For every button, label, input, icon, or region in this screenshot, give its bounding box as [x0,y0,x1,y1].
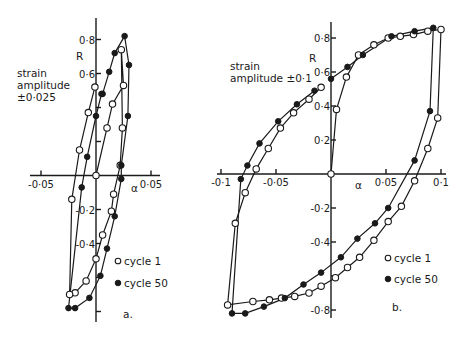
data-point-cycle-1 [438,26,444,32]
data-point-cycle-50 [229,311,235,317]
data-point-cycle-1 [425,28,431,34]
data-point-cycle-1 [265,145,271,151]
panel-a-annotation-line1: strain [17,67,47,79]
x-tick-label: 0·05 [140,179,162,190]
y-tick-label: 0·2 [314,135,330,146]
x-tick-label: 0·05 [375,177,397,188]
panel-a-label: a. [123,308,133,320]
x-tick-label: -0·05 [28,179,54,190]
panel-b-label: b. [392,301,402,313]
data-point-cycle-1 [232,220,238,226]
curve-cycle-50 [69,36,130,308]
data-point-cycle-50 [84,154,90,160]
data-point-cycle-1 [356,254,362,260]
data-point-cycle-50 [87,295,93,301]
panel-b-annotation-line2: amplitude ±0·1 [230,72,312,84]
panel-a-annotation-line3: ±0·025 [17,91,56,103]
panel-a-legend: cycle 1 cycle 50 [115,255,168,289]
data-point-cycle-1 [277,125,283,131]
data-point-cycle-50 [318,270,324,276]
legend-filled-circle-icon [385,276,391,282]
data-point-cycle-50 [112,214,118,220]
panel-b-chart: -0·1-0·050·050·10·80·60·40·2-0·2-0·4-0·8… [211,22,449,318]
data-point-cycle-1 [371,237,377,243]
hysteresis-figure: -0·050·050·80·6-0·2-0·4 R α strain ampli… [0,0,461,339]
data-point-cycle-1 [266,297,272,303]
data-point-cycle-1 [66,291,72,297]
data-point-cycle-1 [250,298,256,304]
data-point-cycle-50 [360,52,366,58]
data-point-cycle-50 [372,221,378,227]
y-tick-label: 0·6 [314,67,330,78]
data-point-cycle-1 [224,302,230,308]
data-point-cycle-1 [425,145,431,151]
data-point-cycle-50 [125,113,131,119]
y-tick-label: -0·2 [310,203,330,214]
data-point-cycle-50 [431,25,437,31]
data-point-cycle-1 [93,256,99,262]
data-point-cycle-50 [242,311,248,317]
data-point-cycle-50 [301,282,307,288]
panel-a-legend-cycle1: cycle 1 [124,255,161,267]
panel-b-legend-cycle50: cycle 50 [394,273,438,285]
data-point-cycle-1 [318,283,324,289]
data-point-cycle-50 [312,88,318,94]
data-point-cycle-1 [83,278,89,284]
data-point-cycle-1 [343,74,349,80]
panel-b-legend: cycle 1 cycle 50 [385,252,438,285]
data-point-cycle-50 [328,76,334,82]
data-point-cycle-1 [242,190,248,196]
data-point-cycle-1 [306,290,312,296]
data-point-cycle-1 [411,178,417,184]
panel-b-legend-cycle1: cycle 1 [394,252,431,264]
data-point-cycle-1 [332,275,338,281]
data-point-cycle-50 [245,163,251,169]
data-point-cycle-50 [275,119,281,125]
x-tick-label: -0·05 [263,177,289,188]
data-point-cycle-50 [282,295,288,301]
data-point-cycle-50 [98,273,104,279]
data-point-cycle-1 [104,125,110,131]
y-tick-label: 0·8 [314,33,330,44]
panel-a-annotation-line2: amplitude [17,79,70,91]
data-point-cycle-1 [120,82,126,88]
legend-open-circle-icon [115,258,121,264]
data-point-cycle-1 [110,191,116,197]
curve-cycle-50 [232,28,433,314]
y-tick-label: 0·6 [79,69,95,80]
data-point-cycle-1 [371,42,377,48]
panel-b-xlabel: α [355,179,362,191]
panel-a-curves [69,36,130,308]
panel-b-ylabel: R [309,52,316,64]
legend-open-circle-icon [385,255,391,261]
data-point-cycle-1 [328,171,334,177]
data-point-cycle-50 [261,304,267,310]
data-point-cycle-50 [126,62,132,68]
data-point-cycle-50 [257,141,263,147]
data-point-cycle-50 [412,28,418,34]
data-point-cycle-50 [79,185,85,191]
data-point-cycle-50 [427,108,433,114]
data-point-cycle-50 [72,305,78,311]
data-point-cycle-50 [112,50,118,56]
data-point-cycle-1 [85,109,91,115]
data-point-cycle-50 [238,176,244,182]
data-point-cycle-50 [104,246,110,252]
data-point-cycle-1 [109,101,115,107]
data-point-cycle-1 [93,172,99,178]
data-point-cycle-1 [118,47,124,53]
data-point-cycle-50 [119,163,125,169]
data-point-cycle-1 [306,96,312,102]
data-point-cycle-1 [292,293,298,299]
legend-filled-circle-icon [115,280,121,286]
x-tick-label: 0·1 [433,177,449,188]
data-point-cycle-50 [389,34,395,40]
data-point-cycle-1 [99,232,105,238]
data-point-cycle-1 [344,264,350,270]
panel-a-ylabel: R [76,50,83,62]
panel-a-legend-cycle50: cycle 50 [124,277,168,289]
data-point-cycle-1 [333,106,339,112]
panel-a-chart: -0·050·050·80·6-0·2-0·4 R α strain ampli… [17,18,168,322]
data-point-cycle-50 [119,176,125,182]
y-tick-label: -0·4 [75,239,95,250]
